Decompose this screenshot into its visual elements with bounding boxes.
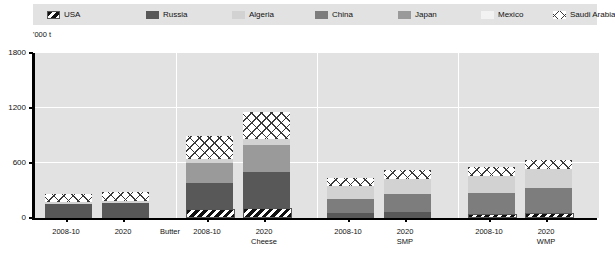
- x-axis-group-label-butter: Butter: [160, 227, 180, 236]
- x-axis-label-butter-0: 2008-10: [52, 227, 80, 236]
- x-tick-mark-0: [66, 218, 68, 222]
- bar-segment-russia: [243, 172, 290, 208]
- bar-segment-china: [468, 193, 515, 214]
- x-axis-group-label-cheese: Cheese: [251, 237, 277, 246]
- legend-label-china: China: [332, 11, 353, 19]
- legend-swatch-mexico-icon: [481, 11, 494, 19]
- bar-segment-algeria: [384, 179, 431, 194]
- x-axis-group-label-smp: SMP: [397, 237, 413, 246]
- bar-butter-2008-10[interactable]: [45, 194, 92, 218]
- x-tick-mark-7: [546, 218, 548, 222]
- bar-segment-usa: [186, 209, 235, 218]
- x-tick-mark-6: [489, 218, 491, 222]
- legend-label-usa: USA: [64, 11, 80, 19]
- x-axis-label-smp-1: 2020: [397, 227, 414, 236]
- bar-segment-japan: [186, 163, 233, 183]
- bar-segment-algeria: [327, 186, 374, 198]
- bar-smp-2008-10[interactable]: [327, 178, 374, 218]
- bar-segment-russia: [45, 204, 92, 218]
- chart-legend: USARussiaAlgeriaChinaJapanMexicoSaudi Ar…: [33, 4, 597, 25]
- x-axis-label-cheese-1: 2020: [256, 227, 273, 236]
- bar-segment-saudi: [384, 170, 431, 179]
- bar-segment-saudi: [327, 178, 374, 186]
- bar-segment-usa: [243, 208, 292, 218]
- legend-swatch-usa-icon: [47, 11, 60, 19]
- legend-swatch-china-icon: [315, 11, 328, 19]
- legend-label-algeria: Algeria: [249, 11, 274, 19]
- y-tick-label-1800: 1800: [0, 48, 26, 57]
- plot-area: [33, 53, 599, 218]
- x-axis-label-butter-1: 2020: [115, 227, 132, 236]
- bar-segment-china: [384, 194, 431, 212]
- bar-butter-2020[interactable]: [102, 192, 149, 218]
- x-axis-group-label-wmp: WMP: [537, 237, 555, 246]
- bar-segment-china: [525, 188, 572, 214]
- legend-label-mexico: Mexico: [498, 11, 523, 19]
- legend-swatch-algeria-icon: [232, 11, 245, 19]
- bar-cheese-2008-10[interactable]: [186, 136, 233, 218]
- bar-segment-russia: [186, 183, 233, 210]
- x-axis-label-smp-0: 2008-10: [334, 227, 362, 236]
- bar-segment-russia: [102, 203, 149, 218]
- legend-swatch-saudi-icon: [553, 11, 566, 19]
- group-separator-3: [458, 53, 459, 218]
- bar-segment-saudi: [525, 160, 572, 169]
- bar-segment-saudi: [102, 192, 149, 201]
- x-axis-label-wmp-1: 2020: [538, 227, 555, 236]
- bar-smp-2020[interactable]: [384, 170, 431, 218]
- x-axis-label-cheese-0: 2008-10: [193, 227, 221, 236]
- legend-label-russia: Russia: [163, 11, 187, 19]
- x-axis-label-wmp-0: 2008-10: [475, 227, 503, 236]
- bar-segment-saudi: [45, 194, 92, 202]
- bar-segment-saudi: [186, 136, 233, 159]
- x-tick-mark-4: [348, 218, 350, 222]
- bar-segment-saudi: [468, 167, 515, 176]
- bar-segment-china: [327, 199, 374, 213]
- bar-segment-algeria: [525, 169, 572, 187]
- group-separator-1: [176, 53, 177, 218]
- y-tick-label-1200: 1200: [0, 103, 26, 112]
- group-separator-2: [317, 53, 318, 218]
- legend-item-usa[interactable]: USA: [47, 11, 80, 19]
- legend-item-algeria[interactable]: Algeria: [232, 11, 274, 19]
- bar-segment-saudi: [243, 112, 290, 139]
- bar-cheese-2020[interactable]: [243, 112, 290, 218]
- bar-wmp-2020[interactable]: [525, 160, 572, 218]
- legend-label-saudi: Saudi Arabia: [570, 11, 615, 19]
- legend-item-china[interactable]: China: [315, 11, 353, 19]
- bar-wmp-2008-10[interactable]: [468, 167, 515, 218]
- legend-label-japan: Japan: [415, 11, 437, 19]
- bar-segment-japan: [243, 145, 290, 173]
- legend-swatch-russia-icon: [146, 11, 159, 19]
- legend-swatch-japan-icon: [398, 11, 411, 19]
- legend-item-mexico[interactable]: Mexico: [481, 11, 523, 19]
- legend-item-japan[interactable]: Japan: [398, 11, 437, 19]
- x-axis-line: [33, 218, 597, 220]
- y-tick-label-0: 0: [0, 213, 26, 222]
- x-tick-mark-5: [405, 218, 407, 222]
- legend-item-russia[interactable]: Russia: [146, 11, 187, 19]
- y-axis-unit-label: '000 t: [33, 30, 51, 39]
- legend-item-saudi[interactable]: Saudi Arabia: [553, 11, 615, 19]
- x-tick-mark-2: [207, 218, 209, 222]
- x-tick-mark-3: [264, 218, 266, 222]
- x-tick-mark-1: [123, 218, 125, 222]
- bar-segment-algeria: [468, 176, 515, 193]
- y-tick-label-600: 600: [0, 158, 26, 167]
